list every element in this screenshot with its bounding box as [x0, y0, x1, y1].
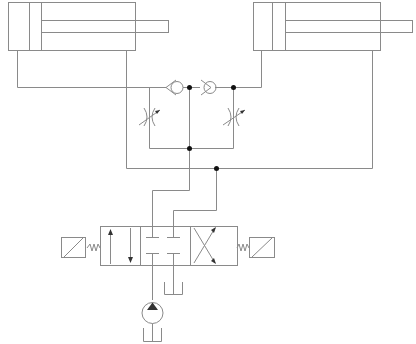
hydraulic-diagram	[0, 0, 416, 344]
tank-valve	[165, 280, 183, 295]
junction-dots	[187, 85, 236, 171]
pipe-lines	[18, 51, 373, 301]
directional-valve	[101, 227, 238, 266]
solenoid-right	[250, 238, 275, 258]
tank-pump	[144, 324, 162, 342]
spring-left	[87, 244, 100, 251]
check-valve-right	[201, 80, 216, 95]
pump	[142, 303, 163, 324]
cylinder-right	[254, 3, 413, 51]
cylinder-left	[9, 3, 169, 51]
solenoid-left	[62, 238, 86, 258]
check-valve-left	[166, 80, 183, 95]
spring-right	[237, 244, 249, 251]
